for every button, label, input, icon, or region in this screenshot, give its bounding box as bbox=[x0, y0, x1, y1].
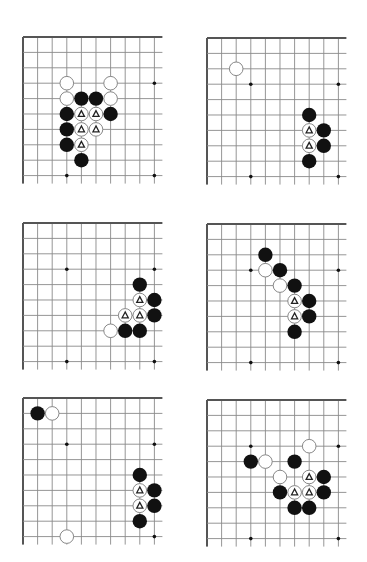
black-stone bbox=[273, 263, 287, 277]
black-stone bbox=[244, 454, 258, 468]
white-stone-marked bbox=[302, 124, 316, 138]
hoshi-point-icon bbox=[249, 361, 253, 365]
white-stone bbox=[104, 92, 118, 106]
hoshi-point-icon bbox=[337, 268, 341, 272]
black-stone bbox=[60, 138, 74, 152]
white-stone bbox=[273, 279, 287, 293]
go-diagram-2 bbox=[205, 36, 348, 187]
go-diagram-6 bbox=[205, 398, 348, 549]
white-stone-marked bbox=[89, 107, 103, 121]
black-stone bbox=[60, 107, 74, 121]
hoshi-point-icon bbox=[65, 267, 69, 271]
go-diagram-5 bbox=[21, 396, 164, 547]
white-stone-marked bbox=[133, 309, 147, 323]
white-stone bbox=[259, 455, 273, 469]
go-diagram-1 bbox=[21, 35, 164, 186]
black-stone bbox=[60, 122, 74, 136]
black-stone bbox=[302, 294, 316, 308]
hoshi-point-icon bbox=[153, 267, 157, 271]
black-stone bbox=[302, 501, 316, 515]
go-board bbox=[21, 221, 164, 372]
white-stone bbox=[229, 62, 243, 76]
black-stone bbox=[317, 485, 331, 499]
black-stone bbox=[287, 454, 301, 468]
go-board bbox=[205, 398, 348, 549]
white-stone bbox=[259, 263, 273, 277]
hoshi-point-icon bbox=[65, 442, 69, 446]
white-stone-marked bbox=[302, 470, 316, 484]
hoshi-point-icon bbox=[153, 442, 157, 446]
go-diagram-4 bbox=[205, 222, 348, 373]
hoshi-point-icon bbox=[337, 82, 341, 86]
white-stone bbox=[45, 407, 59, 421]
hoshi-point-icon bbox=[153, 81, 157, 85]
white-stone-marked bbox=[302, 139, 316, 153]
hoshi-point-icon bbox=[337, 175, 341, 179]
black-stone bbox=[147, 499, 161, 513]
white-stone-marked bbox=[133, 484, 147, 498]
black-stone bbox=[103, 107, 117, 121]
hoshi-point-icon bbox=[153, 535, 157, 539]
white-stone bbox=[60, 92, 74, 106]
white-stone-marked bbox=[133, 293, 147, 307]
black-stone bbox=[133, 468, 147, 482]
black-stone bbox=[287, 325, 301, 339]
black-stone bbox=[317, 139, 331, 153]
white-stone-marked bbox=[89, 123, 103, 137]
hoshi-point-icon bbox=[153, 174, 157, 178]
hoshi-point-icon bbox=[249, 537, 253, 541]
hoshi-point-icon bbox=[153, 360, 157, 364]
black-stone bbox=[302, 154, 316, 168]
black-stone bbox=[118, 324, 132, 338]
hoshi-point-icon bbox=[249, 268, 253, 272]
hoshi-point-icon bbox=[65, 360, 69, 364]
black-stone bbox=[317, 123, 331, 137]
hoshi-point-icon bbox=[337, 361, 341, 365]
black-stone bbox=[317, 470, 331, 484]
white-stone-marked bbox=[288, 486, 302, 500]
white-stone-marked bbox=[288, 294, 302, 308]
white-stone bbox=[104, 76, 118, 90]
board-grid bbox=[207, 38, 346, 185]
hoshi-point-icon bbox=[249, 82, 253, 86]
hoshi-point-icon bbox=[249, 444, 253, 448]
black-stone bbox=[133, 514, 147, 528]
go-diagram-3 bbox=[21, 221, 164, 372]
white-stone bbox=[60, 76, 74, 90]
white-stone-marked bbox=[302, 486, 316, 500]
white-stone bbox=[104, 324, 118, 338]
black-stone bbox=[74, 91, 88, 105]
black-stone bbox=[273, 485, 287, 499]
hoshi-point-icon bbox=[65, 174, 69, 178]
white-stone-marked bbox=[75, 107, 89, 121]
go-board bbox=[205, 36, 348, 187]
black-stone bbox=[302, 108, 316, 122]
white-stone-marked bbox=[118, 309, 132, 323]
go-board bbox=[205, 222, 348, 373]
white-stone-marked bbox=[288, 310, 302, 324]
black-stone bbox=[287, 278, 301, 292]
black-stone bbox=[30, 406, 44, 420]
board-grid bbox=[207, 224, 346, 371]
hoshi-point-icon bbox=[337, 537, 341, 541]
black-stone bbox=[89, 91, 103, 105]
white-stone bbox=[60, 530, 74, 544]
white-stone bbox=[302, 439, 316, 453]
white-stone-marked bbox=[133, 499, 147, 513]
black-stone bbox=[258, 248, 272, 262]
go-board bbox=[21, 35, 164, 186]
hoshi-point-icon bbox=[249, 175, 253, 179]
black-stone bbox=[302, 309, 316, 323]
black-stone bbox=[74, 153, 88, 167]
hoshi-point-icon bbox=[337, 444, 341, 448]
white-stone-marked bbox=[75, 138, 89, 152]
go-board bbox=[21, 396, 164, 547]
black-stone bbox=[133, 277, 147, 291]
black-stone bbox=[147, 293, 161, 307]
black-stone bbox=[133, 324, 147, 338]
black-stone bbox=[147, 308, 161, 322]
black-stone bbox=[287, 501, 301, 515]
black-stone bbox=[147, 483, 161, 497]
white-stone bbox=[273, 470, 287, 484]
white-stone-marked bbox=[75, 123, 89, 137]
